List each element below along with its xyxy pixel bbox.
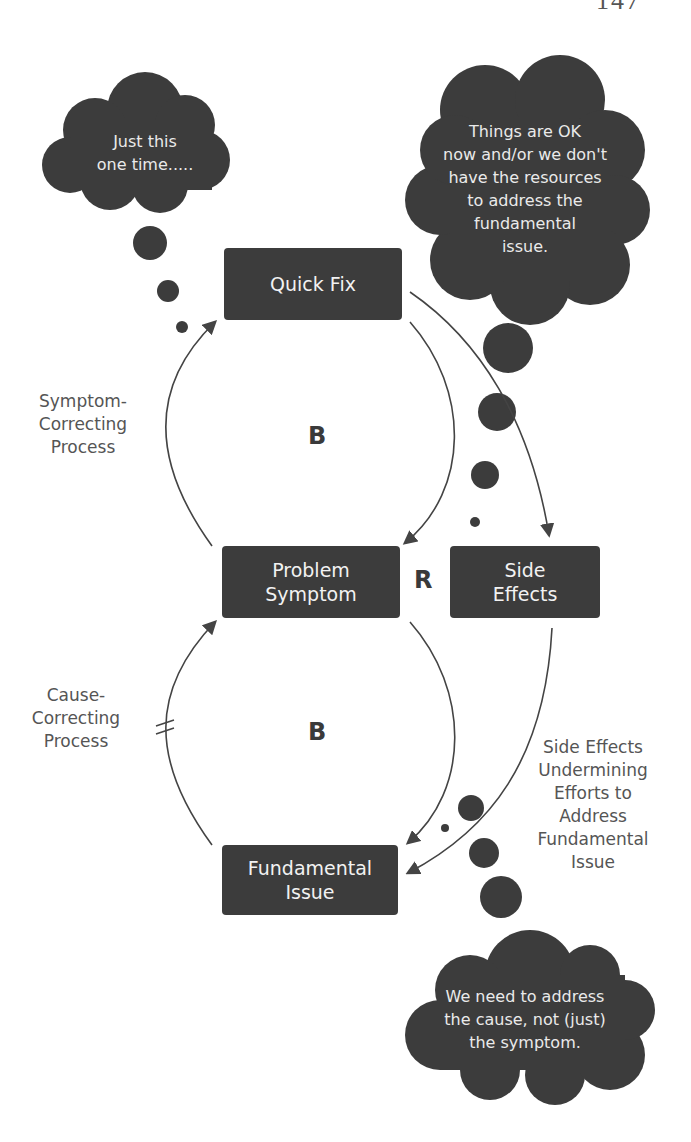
- node-problem-symptom: Problem Symptom: [222, 546, 400, 618]
- delay-marker-icon: [156, 720, 174, 734]
- node-quick-fix: Quick Fix: [224, 248, 402, 320]
- cloud-line: one time.....: [80, 153, 210, 176]
- archetype-diagram: 147: [0, 0, 691, 1142]
- thought-bubble: [480, 876, 522, 918]
- cloud-line: now and/or we don't: [425, 143, 625, 166]
- thought-bubble: [470, 517, 480, 527]
- cloud-line: issue.: [425, 235, 625, 258]
- label-line: Side Effects: [528, 736, 658, 759]
- cloud-line: fundamental: [425, 212, 625, 235]
- cloud-text-top-right: Things are OK now and/or we don't have t…: [425, 120, 625, 258]
- cloud-line: the symptom.: [425, 1031, 625, 1054]
- thought-bubble: [458, 795, 484, 821]
- arrow-problem-to-quickfix: [166, 322, 215, 546]
- node-fundamental-issue: Fundamental Issue: [222, 845, 398, 915]
- arrow-fundamental-to-problem: [166, 622, 215, 845]
- arrow-quickfix-to-problem: [405, 322, 454, 543]
- loop-label-balancing-bottom: B: [308, 718, 326, 746]
- cloud-text-bottom: We need to address the cause, not (just)…: [425, 985, 625, 1054]
- thought-bubble: [483, 323, 533, 373]
- label-line: Efforts to: [528, 782, 658, 805]
- loop-label-reinforcing: R: [414, 566, 432, 594]
- label-line: Cause-: [22, 684, 130, 707]
- cloud-line: Things are OK: [425, 120, 625, 143]
- label-cause-correcting-process: Cause- Correcting Process: [22, 684, 130, 753]
- loop-label-balancing-top: B: [308, 422, 326, 450]
- node-label: Quick Fix: [270, 272, 356, 296]
- cloud-text-top-left: Just this one time.....: [80, 130, 210, 176]
- label-symptom-correcting-process: Symptom- Correcting Process: [28, 390, 138, 459]
- thought-bubble: [441, 824, 449, 832]
- label-line: Process: [28, 436, 138, 459]
- node-label: Side: [504, 558, 545, 582]
- node-label: Fundamental: [248, 856, 372, 880]
- cloud-line: the cause, not (just): [425, 1008, 625, 1031]
- node-label: Effects: [493, 582, 558, 606]
- thought-bubble: [471, 461, 499, 489]
- node-label: Issue: [285, 880, 334, 904]
- label-line: Correcting: [28, 413, 138, 436]
- node-side-effects: Side Effects: [450, 546, 600, 618]
- thought-bubble: [157, 280, 179, 302]
- thought-bubble: [478, 393, 516, 431]
- cloud-line: to address the: [425, 189, 625, 212]
- label-side-effects-undermining: Side Effects Undermining Efforts to Addr…: [528, 736, 658, 874]
- thought-bubble: [469, 838, 499, 868]
- label-line: Undermining: [528, 759, 658, 782]
- cloud-line: have the resources: [425, 166, 625, 189]
- cloud-line: Just this: [80, 130, 210, 153]
- label-line: Symptom-: [28, 390, 138, 413]
- thought-bubble: [176, 321, 188, 333]
- node-label: Symptom: [265, 582, 356, 606]
- label-line: Process: [22, 730, 130, 753]
- thought-cloud-top-left: [42, 72, 230, 333]
- label-line: Fundamental: [528, 828, 658, 851]
- label-line: Address: [528, 805, 658, 828]
- thought-bubble: [133, 226, 167, 260]
- arrow-problem-to-fundamental: [408, 622, 455, 843]
- label-line: Correcting: [22, 707, 130, 730]
- node-label: Problem: [272, 558, 350, 582]
- label-line: Issue: [528, 851, 658, 874]
- cloud-line: We need to address: [425, 985, 625, 1008]
